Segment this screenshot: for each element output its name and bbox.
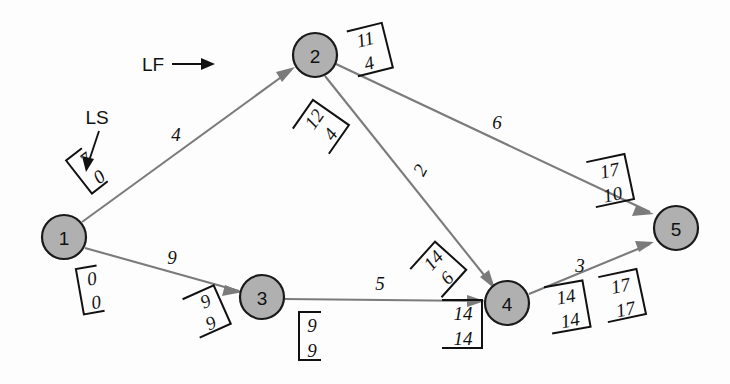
edge-weight-2-5: 6 (492, 112, 502, 133)
bracket-node5-lower-top: 17 (609, 273, 633, 298)
network-diagram-canvas: 4 9 6 2 5 3 7 0 0 0 11 (0, 0, 730, 384)
annotation-group: LS LF (82, 54, 215, 173)
bracket-node3-lower-top: 9 (307, 315, 317, 336)
bracket-node2-right-bottom: 4 (362, 52, 377, 75)
bracket-node5-upper-bottom: 10 (601, 182, 624, 207)
edge-weight-1-2: 4 (171, 124, 181, 145)
bracket-node5-lower-bottom: 17 (614, 297, 638, 322)
bracket-node1-lower-top: 0 (85, 267, 98, 289)
node-3-label: 3 (257, 288, 268, 309)
bracket-node1-lower-bottom: 0 (89, 291, 102, 313)
node-5[interactable]: 5 (654, 206, 698, 250)
bracket-node3-left-bottom: 9 (202, 311, 220, 334)
annotation-ls-label: LS (85, 107, 108, 128)
edge-weight-2-4: 2 (408, 160, 431, 179)
edge-1-to-3[interactable] (85, 248, 243, 296)
bracket-node4-lower: 14 14 (442, 300, 482, 349)
edge-1-to-2[interactable] (82, 67, 295, 222)
node-4-label: 4 (502, 294, 513, 315)
bracket-node4-upper: 14 6 (410, 242, 467, 299)
bracket-node5-upper: 17 10 (586, 154, 634, 209)
annotation-lf-label: LF (142, 54, 164, 75)
node-2[interactable]: 2 (293, 33, 337, 77)
edge-weight-3-4: 5 (375, 273, 385, 294)
bracket-node1-lower: 0 0 (76, 265, 105, 314)
node-5-label: 5 (671, 219, 682, 240)
bracket-node4-lower-top: 14 (454, 303, 474, 324)
bracket-node2-lower: 12 4 (293, 100, 350, 154)
node-1[interactable]: 1 (42, 215, 86, 259)
bracket-node5-lower: 17 17 (598, 269, 646, 324)
annotation-lf-arrowhead (201, 58, 215, 70)
node-2-label: 2 (310, 46, 321, 67)
edge-weight-4-5: 3 (574, 255, 585, 276)
edge-4-to-5-arrowhead (635, 241, 654, 252)
bracket-node1-upper-bottom: 0 (89, 165, 110, 188)
bracket-node4-lower-bottom: 14 (454, 328, 474, 349)
bracket-node2-right-top: 11 (354, 27, 376, 52)
network-diagram-svg: 4 9 6 2 5 3 7 0 0 0 11 (0, 0, 730, 384)
bracket-node5-upper-top: 17 (598, 158, 622, 183)
bracket-node4-upper-bottom: 6 (436, 267, 458, 288)
edge-weight-1-3: 9 (167, 247, 177, 268)
edge-2-to-4-line (325, 76, 492, 285)
edge-group (82, 64, 654, 307)
edge-2-to-4[interactable] (325, 76, 495, 289)
node-4[interactable]: 4 (485, 281, 529, 325)
bracket-node3-lower: 9 9 (299, 312, 321, 361)
edge-1-to-2-line (82, 70, 291, 222)
edge-2-to-5-arrowhead (632, 206, 654, 216)
bracket-node4-right-top: 14 (555, 284, 578, 308)
bracket-node3-lower-bottom: 9 (307, 340, 317, 361)
bracket-node4-right-bottom: 14 (559, 308, 582, 332)
bracket-node3-left-top: 9 (197, 289, 215, 312)
bracket-node1-upper: 7 0 (66, 147, 110, 195)
node-3[interactable]: 3 (240, 275, 284, 319)
bracket-node4-right: 14 14 (544, 280, 591, 334)
bracket-node2-right: 11 4 (347, 23, 393, 77)
edge-1-to-3-line (85, 248, 239, 291)
annotation-lf: LF (142, 54, 215, 75)
annotation-ls: LS (82, 107, 109, 173)
node-1-label: 1 (59, 228, 70, 249)
